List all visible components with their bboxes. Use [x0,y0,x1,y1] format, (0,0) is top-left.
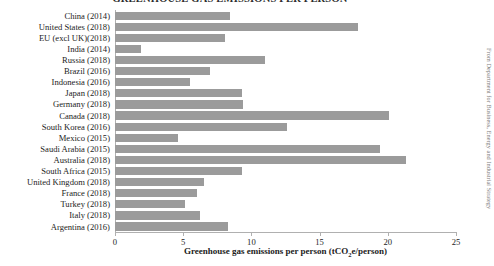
bar [115,67,210,75]
bar-row [115,77,456,89]
y-axis-tick-label: India (2014) [67,44,110,54]
x-axis-tick [456,232,457,236]
bar [115,222,228,230]
plot-area: 0510152025 [115,10,456,232]
y-axis-tick-label: United States (2018) [39,22,110,32]
y-axis-tick-label: Italy (2018) [69,210,110,220]
bar-row [115,154,456,166]
y-axis-tick-label: Japan (2018) [65,88,110,98]
bar-row [115,21,456,33]
x-axis-tick [115,232,116,236]
y-axis-tick-label: United Kingdom (2018) [27,177,110,187]
bar-row [115,177,456,189]
bar-row [115,54,456,66]
bar-row [115,221,456,233]
y-axis-tick-label: Saudi Arabia (2015) [40,144,110,154]
bar-row [115,10,456,22]
bar [115,200,185,208]
bar [115,189,197,197]
bar-row [115,165,456,177]
bar-row [115,99,456,111]
y-axis-tick-label: Brazil (2016) [64,66,110,76]
x-axis-tick [388,232,389,236]
y-axis-tick-label: Indonesia (2016) [52,77,110,87]
bar [115,211,200,219]
source-credit: From Department for Business, Energy and… [486,48,493,209]
bar-row [115,143,456,155]
bar [115,178,204,186]
y-axis-tick-label: France (2018) [62,188,110,198]
bar [115,34,225,42]
y-axis-tick-label: South Korea (2016) [42,122,110,132]
chart-title: GREENHOUSE GAS EMISSIONS PER PERSON [0,0,460,4]
bar [115,45,141,53]
bar-row [115,132,456,144]
y-axis-tick-label: Russia (2018) [62,55,110,65]
x-axis-title: Greenhouse gas emissions per person (tCO… [115,246,456,258]
bar [115,134,178,142]
y-axis-tick-label: Argentina (2016) [51,222,110,232]
y-axis-tick-label: China (2014) [64,11,110,21]
bar [115,23,358,31]
bar [115,156,406,164]
bar-row [115,43,456,55]
bar [115,12,230,20]
y-axis-tick-label: Germany (2018) [53,99,110,109]
bar-row [115,66,456,78]
bar [115,89,242,97]
chart-figure: GREENHOUSE GAS EMISSIONS PER PERSON 0510… [0,0,494,266]
bar [115,111,389,119]
y-axis-tick-label: Mexico (2015) [59,133,110,143]
y-axis-tick-label: Australia (2018) [53,155,110,165]
bar [115,145,380,153]
x-axis-tick [320,232,321,236]
y-axis-tick-label: EU (excl UK)(2018) [39,33,110,43]
bar-row [115,188,456,200]
bar [115,100,243,108]
bar [115,123,287,131]
bar [115,78,190,86]
bar-row [115,88,456,100]
bar [115,167,242,175]
y-axis-tick-label: Canada (2018) [59,111,110,121]
x-axis-tick [251,232,252,236]
bar-row [115,210,456,222]
bar-row [115,110,456,122]
bar-row [115,121,456,133]
y-axis-tick-label: South Africa (2015) [41,166,110,176]
bar-row [115,199,456,211]
y-axis-tick-label: Turkey (2018) [60,199,110,209]
x-axis-tick [183,232,184,236]
bar [115,56,265,64]
bar-row [115,32,456,44]
